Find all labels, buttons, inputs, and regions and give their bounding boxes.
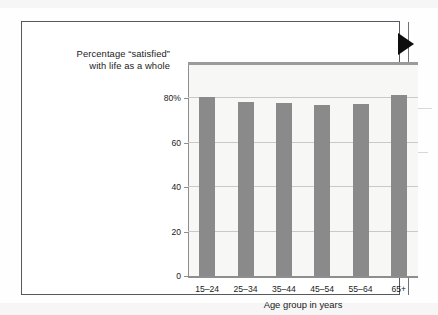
y-tick-label: 20 — [171, 227, 181, 237]
x-axis-label: Age group in years — [188, 299, 418, 310]
gridline — [188, 97, 418, 98]
y-tick-mark — [184, 232, 188, 233]
gridline — [188, 186, 418, 187]
scanned-page: Percentage “satisfied” with life as a wh… — [0, 0, 438, 315]
x-tick-label: 65+ — [392, 284, 407, 294]
x-tick-label: 35–44 — [272, 284, 296, 294]
gridline — [188, 142, 418, 143]
x-tick-label: 15–24 — [195, 284, 219, 294]
y-tick-mark — [184, 187, 188, 188]
chart-title-line-1: Percentage “satisfied” — [36, 48, 170, 60]
x-tick-label: 55–64 — [349, 284, 373, 294]
bar — [238, 102, 254, 276]
x-axis-baseline — [188, 276, 418, 278]
bar — [199, 97, 215, 276]
plot-area: 020406080% 15–2425–3435–4445–5455–6465+ … — [188, 62, 418, 278]
scan-edge-top — [0, 0, 438, 8]
plot-top-rule — [188, 62, 418, 65]
gridline — [188, 231, 418, 232]
right-pointing-triangle-icon — [398, 33, 414, 55]
figure-box: Percentage “satisfied” with life as a wh… — [21, 21, 400, 295]
bar — [391, 95, 407, 276]
chart-title-line-2: with life as a whole — [36, 60, 170, 72]
bar — [276, 103, 292, 276]
bar — [314, 105, 330, 276]
y-tick-mark — [184, 98, 188, 99]
y-tick-label: 40 — [171, 182, 181, 192]
y-tick-mark — [184, 143, 188, 144]
bar — [353, 104, 369, 276]
chart-title: Percentage “satisfied” with life as a wh… — [36, 48, 170, 73]
y-tick-label: 0 — [176, 271, 181, 281]
y-tick-label: 60 — [171, 138, 181, 148]
x-tick-label: 45–54 — [310, 284, 334, 294]
x-tick-label: 25–34 — [234, 284, 258, 294]
y-tick-label: 80% — [164, 93, 181, 103]
